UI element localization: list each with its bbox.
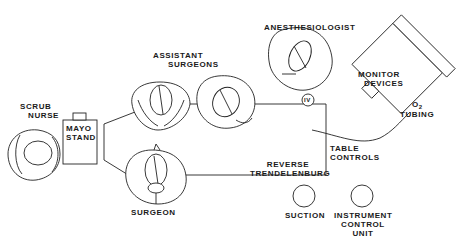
label-anesthesiologist: ANESTHESIOLOGIST	[264, 23, 355, 32]
label-mayo-stand: MAYO STAND	[66, 124, 96, 142]
label-reverse-trendelenburg: REVERSE TRENDELENBURG	[250, 160, 326, 178]
label-o2-tubing: O2 TUBING	[400, 100, 434, 119]
scrub-nurse-figure	[8, 130, 60, 180]
label-table-controls: TABLE CONTROLS	[330, 144, 380, 162]
label-instrument-control-unit: INSTRUMENT CONTROL UNIT	[334, 211, 392, 238]
instrument-control-unit	[351, 185, 373, 207]
label-assistant-surgeons: ASSISTANT SURGEONS	[153, 51, 219, 69]
label-suction: SUCTION	[282, 211, 328, 220]
assistant-surgeon-1-figure	[132, 82, 190, 130]
label-scrub-nurse: SCRUB NURSE	[20, 102, 59, 120]
suction-unit	[293, 185, 315, 207]
label-iv: IV	[304, 96, 311, 105]
label-surgeon: SURGEON	[131, 208, 176, 217]
o2-tubing-line	[312, 112, 410, 141]
surgeon-figure	[126, 144, 186, 204]
assistant-surgeon-2-figure	[197, 76, 255, 129]
label-monitor-devices: MONITOR DEVICES	[358, 70, 403, 88]
anesthesiologist-figure	[269, 28, 333, 91]
